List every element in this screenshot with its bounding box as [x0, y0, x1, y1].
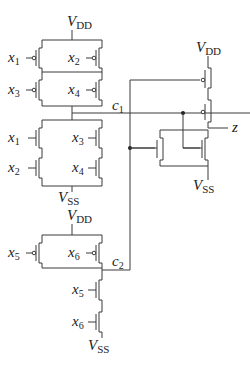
- pmos-x6: x6: [67, 235, 102, 268]
- nmos-x2: x2: [7, 154, 42, 186]
- svg-text:x3: x3: [71, 129, 84, 147]
- svg-text:x2: x2: [67, 49, 80, 67]
- vss-label-gate3: VSS: [193, 177, 214, 195]
- vdd-label-gate3: VDD: [196, 39, 221, 57]
- vss-label-gate1: VSS: [58, 189, 79, 207]
- nmos-x3: x3: [71, 120, 102, 154]
- pmos-x4: x4: [67, 72, 102, 106]
- nmos-x6: x6: [71, 308, 102, 338]
- pmos-x2: x2: [67, 40, 102, 72]
- pmos-x3: x3: [7, 72, 42, 106]
- pmos-c1: [201, 100, 211, 128]
- nmos-x5: x5: [71, 268, 102, 308]
- svg-text:x4: x4: [67, 81, 80, 99]
- vss-label-gate2: VSS: [88, 337, 109, 355]
- svg-text:x6: x6: [67, 244, 80, 262]
- gate2: VDD x5 x6 c2 x5: [7, 207, 124, 355]
- pmos-x1: x1: [7, 40, 42, 72]
- svg-text:x5: x5: [7, 244, 20, 262]
- svg-text:x3: x3: [7, 81, 20, 99]
- circuit-diagram: VDD x1 x2 x3: [0, 0, 250, 365]
- pmos-x5: x5: [7, 235, 42, 268]
- vdd-label-gate1: VDD: [67, 13, 92, 31]
- svg-text:x6: x6: [71, 313, 84, 331]
- nmos-c1: [183, 130, 208, 166]
- z-label: z: [231, 119, 238, 135]
- gate3: VDD z VSS: [130, 39, 238, 195]
- nmos-c2: [130, 130, 163, 166]
- nmos-x4: x4: [71, 154, 102, 186]
- svg-text:x1: x1: [7, 49, 20, 67]
- pmos-c2: [201, 68, 211, 100]
- nmos-x1: x1: [7, 120, 42, 154]
- gate1: VDD x1 x2 x3: [7, 13, 124, 207]
- vdd-label-gate2: VDD: [67, 207, 92, 225]
- c2-label: c2: [112, 253, 124, 271]
- svg-text:x5: x5: [71, 281, 84, 299]
- svg-text:x1: x1: [7, 129, 20, 147]
- svg-text:x2: x2: [7, 159, 20, 177]
- c1-label: c1: [112, 97, 124, 115]
- svg-text:x4: x4: [71, 159, 84, 177]
